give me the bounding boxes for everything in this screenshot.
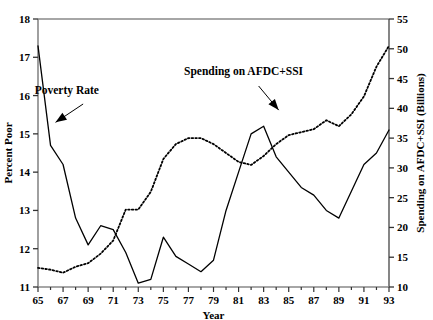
- chart-canvas: 1112131415161718101520253035404550556567…: [0, 0, 433, 320]
- y-tick-label-right: 40: [397, 102, 409, 114]
- y-tick-label-right: 20: [397, 221, 409, 233]
- annotation-label-2: Spending on AFDC+SSI: [184, 65, 304, 78]
- x-tick-label: 91: [358, 294, 369, 306]
- annotation-arrow-head-1: [56, 113, 67, 123]
- x-tick-label: 93: [384, 294, 396, 306]
- y-tick-label-left: 15: [19, 128, 31, 140]
- y-tick-label-left: 18: [19, 13, 31, 25]
- y-tick-label-right: 30: [397, 162, 409, 174]
- x-tick-label: 81: [233, 294, 244, 306]
- x-tick-label: 65: [33, 294, 45, 306]
- x-tick-label: 87: [308, 294, 320, 306]
- x-tick-label: 75: [158, 294, 170, 306]
- annotation-label-1: Poverty Rate: [35, 84, 99, 97]
- x-axis-title: Year: [203, 309, 225, 320]
- x-tick-label: 71: [108, 294, 119, 306]
- y-tick-label-right: 25: [397, 192, 409, 204]
- series-line-1: [38, 46, 389, 283]
- x-tick-label: 83: [258, 294, 270, 306]
- y-tick-label-left: 11: [20, 281, 30, 293]
- y-tick-label-left: 12: [19, 243, 31, 255]
- y-tick-label-left: 17: [19, 51, 31, 63]
- y-tick-label-right: 35: [397, 132, 409, 144]
- y-tick-label-right: 50: [397, 43, 409, 55]
- annotation-arrow-head-2: [268, 99, 278, 110]
- x-tick-label: 85: [283, 294, 295, 306]
- x-tick-label: 67: [58, 294, 70, 306]
- x-tick-label: 89: [333, 294, 345, 306]
- x-tick-label: 77: [183, 294, 195, 306]
- y-axis-title-left: Percent Poor: [2, 122, 14, 183]
- y-tick-label-left: 13: [19, 204, 31, 216]
- y-axis-title-right: Spending on AFDC+SSI (Billions): [414, 73, 427, 233]
- poverty-spending-chart: 1112131415161718101520253035404550556567…: [0, 0, 433, 320]
- y-tick-label-right: 10: [397, 281, 409, 293]
- y-tick-label-left: 14: [19, 166, 31, 178]
- x-tick-label: 73: [133, 294, 145, 306]
- y-tick-label-right: 55: [397, 13, 409, 25]
- x-tick-label: 69: [83, 294, 95, 306]
- y-tick-label-right: 45: [397, 73, 409, 85]
- x-tick-label: 79: [208, 294, 220, 306]
- y-tick-label-left: 16: [19, 90, 31, 102]
- y-tick-label-right: 15: [397, 251, 409, 263]
- series-line-2: [38, 46, 389, 273]
